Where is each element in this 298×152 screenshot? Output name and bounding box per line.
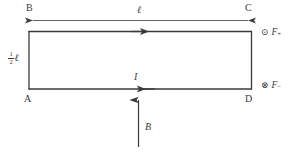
current-loop-rectangle	[29, 31, 253, 90]
force-positive-subscript: +	[277, 30, 281, 38]
force-positive-group: ⊙F+	[261, 28, 281, 38]
height-dimension-unit: ℓ	[15, 53, 19, 63]
physics-diagram-current-loop: B C A D ℓ 1 2 ℓ I B ⊙F+ ⊗F−	[0, 0, 298, 152]
vertex-label-a: A	[24, 94, 31, 104]
magnetic-field-label: B	[145, 122, 151, 132]
cross-in-circle-into-page-icon: ⊗	[261, 80, 269, 90]
height-dimension-label: 1 2 ℓ	[8, 51, 19, 65]
one-half-fraction: 1 2	[8, 51, 14, 65]
vertex-label-d: D	[245, 94, 252, 104]
force-negative-subscript: −	[277, 83, 281, 91]
current-label: I	[134, 72, 137, 82]
vertex-label-b: B	[26, 3, 33, 13]
dot-in-circle-out-of-page-icon: ⊙	[261, 27, 269, 37]
vertex-label-c: C	[245, 3, 252, 13]
width-dimension-label: ℓ	[137, 5, 141, 15]
fraction-numerator: 1	[9, 51, 13, 58]
fraction-denominator: 2	[9, 59, 13, 66]
force-negative-group: ⊗F−	[261, 81, 281, 91]
